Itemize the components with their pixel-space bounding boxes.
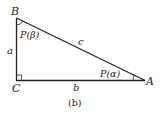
- side-c-line: [17, 18, 146, 81]
- angle-beta-arc: [17, 21, 23, 25]
- vertex-label-b: B: [10, 5, 19, 18]
- figure-caption: (b): [68, 97, 82, 108]
- vertex-label-c: C: [12, 82, 21, 95]
- side-label-c: c: [78, 36, 84, 47]
- vertex-label-a: A: [145, 75, 154, 88]
- side-label-b: b: [73, 82, 79, 93]
- angle-label-alpha: P(α): [99, 68, 121, 79]
- right-angle-marker: [17, 75, 22, 81]
- angle-label-beta: P(β): [19, 29, 40, 40]
- angle-alpha-arc: [133, 75, 134, 80]
- side-label-a: a: [7, 45, 13, 56]
- right-triangle-diagram: B C A a b c P(β) P(α) (b): [0, 0, 162, 116]
